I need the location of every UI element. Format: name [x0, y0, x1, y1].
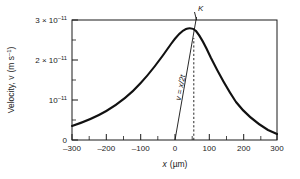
xtick-label-neg300: –300	[63, 144, 81, 153]
x-axis-major-ticks	[72, 134, 277, 140]
ytick-3-mantissa: 3 × 10	[35, 16, 58, 25]
y-axis-title: Velocity, v(m s–1)	[6, 47, 16, 114]
xtick-label-200: 200	[237, 144, 251, 153]
xtick-label-0: 0	[173, 144, 178, 153]
ytick-1-exponent: –11	[58, 95, 67, 101]
k-leader-line	[195, 12, 197, 20]
velocity-curve	[72, 28, 277, 134]
slope-equation-label: v = x/2t	[174, 73, 188, 101]
y-axis-title-variable: Velocity, v	[6, 75, 16, 113]
x-axis-title: x(µm)	[162, 159, 188, 169]
ytick-label-2e-11: 2 × 10–11	[35, 55, 67, 65]
x-axis-title-variable: x	[162, 159, 168, 169]
y-axis-title-unit: (m s	[6, 56, 16, 73]
ytick-label-3e-11: 3 × 10–11	[35, 15, 67, 25]
chart-svg: K v = x/2t 0 10–11 2 × 10–11 3 × 10–11 –…	[0, 0, 300, 179]
ytick-3-exponent: –11	[58, 15, 67, 21]
ytick-2-mantissa: 2 × 10	[35, 56, 58, 65]
xtick-label-neg200: –200	[97, 144, 115, 153]
x-axis-title-unit: (µm)	[170, 159, 188, 169]
velocity-distribution-chart: K v = x/2t 0 10–11 2 × 10–11 3 × 10–11 –…	[0, 0, 300, 179]
ytick-2-exponent: –11	[58, 55, 67, 61]
y-axis-minor-ticks	[72, 40, 76, 120]
xtick-label-300: 300	[270, 144, 284, 153]
xtick-label-neg100: –100	[132, 144, 150, 153]
k-label: K	[198, 4, 204, 13]
y-axis-title-close-paren: )	[6, 47, 16, 50]
ytick-label-1e-11: 10–11	[49, 95, 67, 105]
xtick-label-100: 100	[203, 144, 217, 153]
